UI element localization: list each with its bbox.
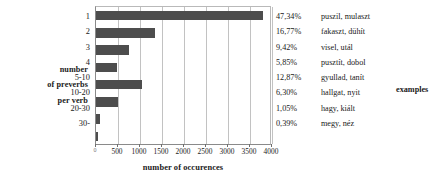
- bar-series: [96, 7, 270, 144]
- bar-chart-figure: number of preverbs per verb 1 2 3 4 5-10…: [0, 0, 438, 184]
- example-value: puszil, mulaszt: [321, 9, 399, 24]
- bar-row: [96, 24, 270, 41]
- bar-row: [96, 7, 270, 24]
- percentage-value: 12,87%: [276, 70, 314, 85]
- x-tick-label: 2000: [176, 147, 191, 156]
- y-tick-label: 3: [62, 40, 90, 55]
- examples-column: puszil, mulaszt fakaszt, dühít visel, ut…: [321, 9, 399, 131]
- example-value: pusztít, dobol: [321, 55, 399, 70]
- x-tick-mark: [249, 144, 250, 147]
- x-tick-label: 1000: [132, 147, 147, 156]
- x-tick-mark: [271, 144, 272, 147]
- x-tick-label: 1500: [154, 147, 169, 156]
- bar: [96, 63, 117, 73]
- bar: [96, 80, 142, 90]
- y-tick-label: 2: [62, 24, 90, 39]
- example-value: hagy, kiált: [321, 101, 399, 116]
- example-value: hallgat, nyit: [321, 85, 399, 100]
- x-tick-label: 0: [94, 147, 97, 153]
- x-tick-mark: [161, 144, 162, 147]
- y-tick-label: 4: [62, 55, 90, 70]
- x-tick-mark: [227, 144, 228, 147]
- percentage-value: 9,42%: [276, 40, 314, 55]
- bar-row: [96, 59, 270, 76]
- plot-area: [95, 6, 271, 145]
- example-value: gyullad, tanít: [321, 70, 399, 85]
- percentage-value: 16,77%: [276, 24, 314, 39]
- gridline: [272, 7, 273, 144]
- x-tick-mark: [139, 144, 140, 147]
- examples-header-label: examples: [396, 85, 428, 94]
- bar-row: [96, 128, 270, 145]
- y-tick-label: 20-30: [62, 101, 90, 116]
- bar-row: [96, 93, 270, 110]
- bar: [96, 132, 98, 142]
- bar-row: [96, 42, 270, 59]
- x-tick-label: 500: [111, 147, 122, 156]
- y-tick-label: 5-10: [62, 70, 90, 85]
- bar-row: [96, 111, 270, 128]
- x-axis-tick-labels: 05001000150020002500300035004000: [95, 147, 271, 159]
- percentage-value: 1,05%: [276, 101, 314, 116]
- y-tick-label: 10-20: [62, 85, 90, 100]
- x-tick-mark: [117, 144, 118, 147]
- percentage-column: 47,34% 16,77% 9,42% 5,85% 12,87% 6,30% 1…: [276, 9, 314, 131]
- example-value: megy, néz: [321, 116, 399, 131]
- percentage-value: 5,85%: [276, 55, 314, 70]
- percentage-value: 6,30%: [276, 85, 314, 100]
- example-value: fakaszt, dühít: [321, 24, 399, 39]
- bar: [96, 11, 263, 21]
- bar: [96, 97, 118, 107]
- y-axis-tick-labels: 1 2 3 4 5-10 10-20 20-30 30-: [62, 9, 90, 131]
- x-tick-label: 3000: [220, 147, 235, 156]
- bar: [96, 28, 155, 38]
- percentage-value: 0,39%: [276, 116, 314, 131]
- x-tick-label: 4000: [264, 147, 279, 156]
- x-tick-mark: [183, 144, 184, 147]
- bar: [96, 45, 129, 55]
- x-tick-label: 2500: [198, 147, 213, 156]
- x-tick-mark: [205, 144, 206, 147]
- bar-row: [96, 76, 270, 93]
- x-axis-title: number of occurences: [95, 163, 271, 172]
- x-tick-mark: [95, 144, 96, 147]
- percentage-value: 47,34%: [276, 9, 314, 24]
- y-tick-label: 1: [62, 9, 90, 24]
- x-tick-label: 3500: [242, 147, 257, 156]
- bar: [96, 114, 100, 124]
- example-value: visel, utál: [321, 40, 399, 55]
- y-tick-label: 30-: [62, 116, 90, 131]
